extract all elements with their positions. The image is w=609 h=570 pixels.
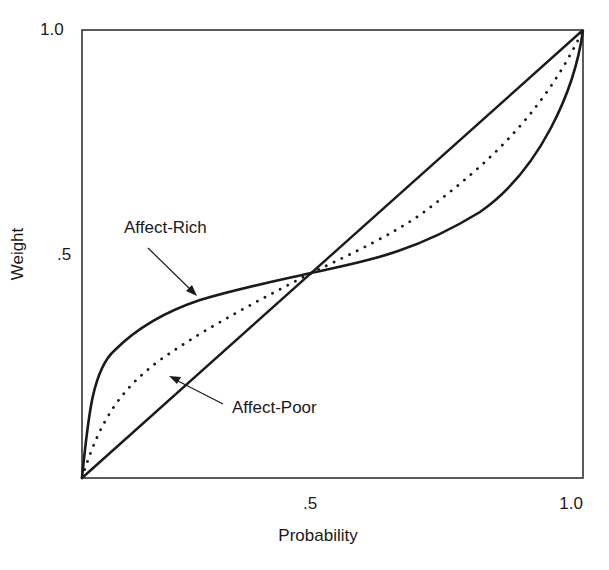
y-tick-max: 1.0 <box>40 20 64 40</box>
x-tick-max: 1.0 <box>559 494 583 514</box>
identity-line <box>82 30 583 478</box>
x-axis-label: Probability <box>278 526 357 546</box>
affect-poor-arrow <box>176 380 223 404</box>
affect-rich-arrow <box>148 248 192 291</box>
x-tick-mid: .5 <box>303 494 317 514</box>
affect-poor-annotation: Affect-Poor <box>232 398 317 418</box>
affect-rich-annotation: Affect-Rich <box>124 218 207 238</box>
y-axis-label: Weight <box>8 228 28 281</box>
chart-container: 1.0 .5 Weight .5 1.0 Probability Affect-… <box>0 0 609 570</box>
affect-poor-arrowhead <box>169 376 181 384</box>
y-tick-mid: .5 <box>57 245 71 265</box>
plot-svg <box>0 0 609 570</box>
